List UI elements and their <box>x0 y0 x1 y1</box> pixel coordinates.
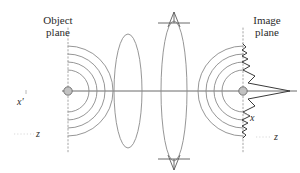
aperture-arrow-bottom-group <box>158 155 190 170</box>
axis-label-z-right: z <box>274 131 278 142</box>
object-plane-label-line1: Object <box>30 14 86 26</box>
image-plane-label-line2: plane <box>241 26 293 38</box>
optical-imaging-diagram: Object plane Image plane x′ z x z <box>0 0 300 173</box>
aperture-arrow-top-group <box>158 12 190 27</box>
image-plane-label: Image plane <box>241 14 293 39</box>
object-plane-label: Object plane <box>30 14 86 39</box>
image-plane-label-line1: Image <box>241 14 293 26</box>
axis-label-x-right: x <box>250 112 254 123</box>
object-plane-label-line2: plane <box>30 26 86 38</box>
object-point-marker <box>64 87 72 95</box>
axis-label-z-left: z <box>36 128 40 139</box>
image-point-marker <box>239 87 247 95</box>
axis-label-x-prime: x′ <box>17 96 24 107</box>
